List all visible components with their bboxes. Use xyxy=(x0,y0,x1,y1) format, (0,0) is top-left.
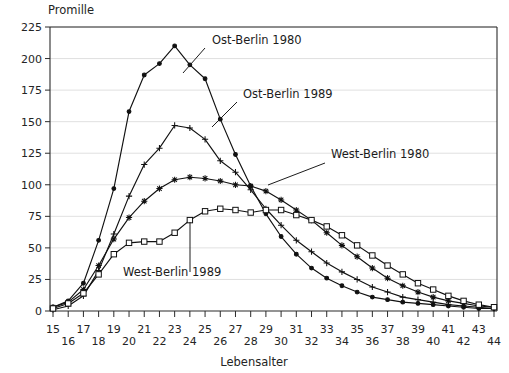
data-point-marker xyxy=(141,198,147,204)
x-tick-label: 34 xyxy=(335,335,349,348)
data-point-marker xyxy=(96,262,102,268)
data-point-marker xyxy=(218,206,223,211)
data-point-marker xyxy=(325,276,329,280)
data-point-marker xyxy=(248,183,254,189)
y-tick-label: 50 xyxy=(28,242,42,255)
data-point-marker xyxy=(339,242,345,248)
x-tick-label: 15 xyxy=(46,323,60,336)
data-point-marker xyxy=(324,230,330,236)
data-point-marker xyxy=(66,301,71,306)
data-point-marker xyxy=(157,239,162,244)
data-point-marker xyxy=(203,77,207,81)
y-tick-label: 25 xyxy=(28,273,42,286)
data-point-marker xyxy=(278,197,284,203)
y-tick-label: 100 xyxy=(21,179,42,192)
data-point-marker xyxy=(81,291,86,296)
data-point-marker xyxy=(217,178,223,184)
data-point-marker xyxy=(430,287,435,292)
chart-container: 0255075100125150175200225 15161718192021… xyxy=(0,0,509,373)
data-point-marker xyxy=(233,207,238,212)
x-tick-label: 43 xyxy=(472,323,486,336)
data-point-marker xyxy=(142,239,147,244)
data-point-marker xyxy=(339,233,344,238)
chart-background xyxy=(0,0,509,373)
x-tick-label: 33 xyxy=(320,323,334,336)
x-tick-label: 25 xyxy=(198,323,212,336)
data-point-marker xyxy=(370,295,374,299)
x-tick-label: 35 xyxy=(350,323,364,336)
x-tick-label: 27 xyxy=(228,323,242,336)
data-point-marker xyxy=(355,290,359,294)
y-tick-label: 150 xyxy=(21,116,42,129)
x-tick-label: 30 xyxy=(274,335,288,348)
data-point-marker xyxy=(310,266,314,270)
data-point-marker xyxy=(400,272,405,277)
x-tick-label: 44 xyxy=(487,335,501,348)
data-point-marker xyxy=(369,265,375,271)
data-point-marker xyxy=(476,302,481,307)
data-point-marker xyxy=(401,300,405,304)
data-point-marker xyxy=(172,230,177,235)
data-point-marker xyxy=(142,73,146,77)
x-tick-label: 36 xyxy=(365,335,379,348)
data-point-marker xyxy=(354,254,360,260)
data-point-marker xyxy=(385,263,390,268)
x-tick-label: 32 xyxy=(305,335,319,348)
x-tick-label: 18 xyxy=(92,335,106,348)
x-tick-label: 37 xyxy=(381,323,395,336)
data-point-marker xyxy=(173,44,177,48)
y-tick-label: 75 xyxy=(28,210,42,223)
data-point-marker xyxy=(354,243,359,248)
data-point-marker xyxy=(97,238,101,242)
data-point-marker xyxy=(156,185,162,191)
x-tick-label: 24 xyxy=(183,335,197,348)
data-point-marker xyxy=(126,214,132,220)
data-point-marker xyxy=(202,175,208,181)
data-point-marker xyxy=(384,275,390,281)
x-tick-label: 29 xyxy=(259,323,273,336)
x-tick-label: 41 xyxy=(441,323,455,336)
data-point-marker xyxy=(126,240,131,245)
x-tick-label: 23 xyxy=(168,323,182,336)
data-point-marker xyxy=(324,224,329,229)
data-point-marker xyxy=(491,305,496,310)
y-tick-label: 125 xyxy=(21,147,42,160)
x-tick-label: 16 xyxy=(61,335,75,348)
data-point-marker xyxy=(400,283,406,289)
data-point-marker xyxy=(158,62,162,66)
y-tick-label: 0 xyxy=(35,305,42,318)
data-point-marker xyxy=(248,210,253,215)
data-point-marker xyxy=(187,174,193,180)
series-label-2: Ost-Berlin 1989 xyxy=(243,87,333,101)
data-point-marker xyxy=(415,281,420,286)
series-label-3: West-Berlin 1980 xyxy=(331,147,429,161)
data-point-marker xyxy=(446,293,451,298)
x-tick-label: 22 xyxy=(152,335,166,348)
x-tick-label: 42 xyxy=(457,335,471,348)
y-axis-label: Promille xyxy=(48,3,94,17)
data-point-marker xyxy=(232,182,238,188)
series-label-4: West-Berlin 1989 xyxy=(123,265,221,279)
x-tick-label: 20 xyxy=(122,335,136,348)
x-tick-label: 28 xyxy=(244,335,258,348)
data-point-marker xyxy=(278,207,283,212)
y-tick-label: 175 xyxy=(21,84,42,97)
data-point-marker xyxy=(111,236,117,242)
data-point-marker xyxy=(263,207,268,212)
data-point-marker xyxy=(309,217,314,222)
y-tick-label: 225 xyxy=(21,21,42,34)
y-tick-label: 200 xyxy=(21,53,42,66)
data-point-marker xyxy=(234,153,238,157)
data-point-marker xyxy=(82,281,86,285)
x-tick-label: 17 xyxy=(76,323,90,336)
x-tick-label: 39 xyxy=(411,323,425,336)
x-tick-label: 31 xyxy=(289,323,303,336)
data-point-marker xyxy=(370,253,375,258)
data-point-marker xyxy=(340,284,344,288)
data-point-marker xyxy=(386,298,390,302)
data-point-marker xyxy=(172,177,178,183)
data-point-marker xyxy=(294,212,299,217)
x-tick-label: 38 xyxy=(396,335,410,348)
data-point-marker xyxy=(127,110,131,114)
data-point-marker xyxy=(415,289,421,295)
